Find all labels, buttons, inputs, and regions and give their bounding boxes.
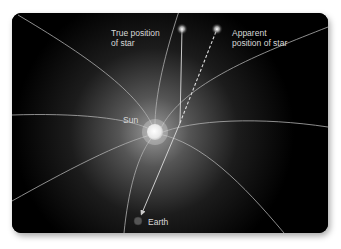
diagram-panel: True position of star Apparent position … <box>12 13 328 233</box>
sun-label: Sun <box>123 115 138 125</box>
true-position-label: True position of star <box>111 28 160 48</box>
sun-icon <box>147 124 163 140</box>
apparent-position-label: Apparent position of star <box>232 28 287 48</box>
apparent-star-icon <box>211 23 223 35</box>
earth-icon <box>134 217 142 225</box>
earth-label: Earth <box>148 217 168 227</box>
true-star-icon <box>176 23 188 35</box>
